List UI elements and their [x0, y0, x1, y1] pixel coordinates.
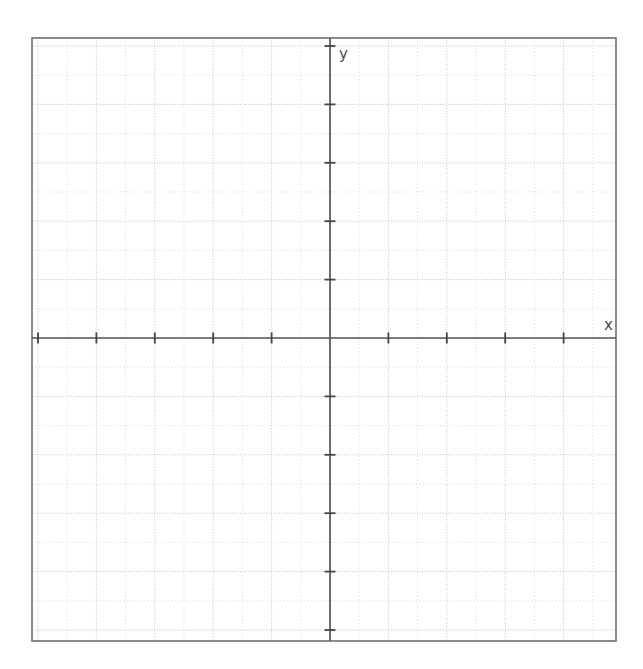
x-axis-label: x — [604, 316, 613, 334]
graph-canvas: x y — [0, 0, 643, 669]
y-axis-label: y — [339, 45, 348, 63]
coordinate-grid-figure: x y — [0, 0, 643, 669]
